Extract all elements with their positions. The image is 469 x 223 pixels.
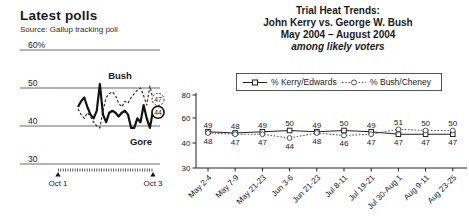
x-category-label: Jun 21-23 [291,173,323,205]
x-category-label: Jul 8-11 [323,173,349,199]
x-category-label: Jun 3-6 [270,173,296,199]
data-label-low: 48 [204,137,213,146]
data-label-high: 49 [204,121,213,130]
left-chart-title: Latest polls [20,8,97,23]
right-chart-title: Trial Heat Trends: John Kerry vs. George… [232,5,444,53]
data-label-high: 51 [394,118,403,127]
data-label-low: 47 [421,138,430,147]
data-label-low: 48 [312,137,321,146]
marker-square [342,128,347,133]
date-pointer-oct1 [55,172,60,177]
data-label-low: 47 [258,138,267,147]
x-category-label: Aug 23-25 [426,173,459,206]
data-label-high: 48 [231,122,240,131]
marker-square [287,128,292,133]
right-chart-title-line1: Trial Heat Trends: [232,5,444,17]
right-chart-title-line4: among likely voters [232,41,444,53]
marker-circle [233,132,238,137]
marker-circle [369,132,374,137]
marker-circle [314,131,319,136]
series-line-gore [78,84,153,128]
data-label-high: 49 [312,121,321,130]
data-label-low: 44 [285,142,294,151]
data-label-high: 49 [367,121,376,130]
x-category-label: May 21-23 [235,173,268,206]
y-tick-label-40: 40 [28,116,38,126]
y-tick-label-30: 30 [28,154,38,164]
data-label-low: 46 [340,139,349,148]
data-label-high: 50 [448,119,457,128]
date-pointer-oct3 [150,172,155,177]
trial-heat-chart: 80604030May 2-4May 7-9May 21-23Jun 3-6Ju… [181,86,469,223]
x-axis-label-oct3: Oct 3 [143,179,163,188]
series-label-bush: Bush [108,70,132,81]
gore-end-value: 44 [154,109,162,116]
data-label-low: 47 [367,138,376,147]
marker-circle [396,127,401,132]
marker-circle [206,131,211,136]
series-line-bush [78,86,153,128]
series-line-bush [208,129,453,138]
marker-square [396,132,401,137]
y-tick-label-40: 40 [182,139,191,148]
data-label-low: 47 [448,138,457,147]
y-tick-label-30: 30 [182,164,191,173]
right-chart-title-line2: John Kerry vs. George W. Bush [232,17,444,29]
series-label-gore: Gore [130,136,152,147]
marker-circle [342,133,347,138]
marker-circle [423,128,428,133]
bush-end-value: 47 [154,96,162,103]
left-chart-source: Source: Gallup tracking poll [20,25,118,34]
y-tick-label-80: 80 [182,91,191,100]
data-label-high: 50 [421,119,430,128]
right-chart-title-line3: May 2004 – August 2004 [232,29,444,41]
marker-circle [450,128,455,133]
x-category-label: May 2-4 [187,173,214,200]
series-line-kerry [208,131,453,135]
data-label-high: 49 [258,121,267,130]
y-tick-label-50: 50 [28,78,38,88]
data-label-low: 47 [394,138,403,147]
data-label-high: 50 [340,119,349,128]
x-category-label: May 7-9 [214,173,241,200]
x-axis-label-oct1: Oct 1 [48,179,68,188]
y-tick-label-60%: 60% [28,42,45,50]
marker-circle [260,132,265,137]
data-label-high: 50 [285,119,294,128]
gallup-tracking-chart: 60%504030BushGore4744Oct 1Oct 3 [12,42,172,212]
marker-circle [287,136,292,141]
data-label-low: 47 [231,138,240,147]
y-tick-label-60: 60 [182,114,191,123]
